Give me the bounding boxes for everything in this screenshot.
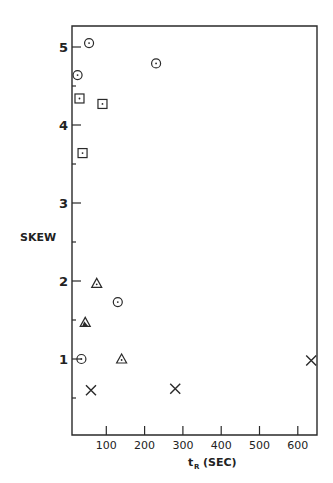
dot-marker-icon bbox=[121, 359, 123, 361]
y-tick-label: 3 bbox=[59, 196, 68, 211]
data-point-square-dot bbox=[75, 94, 84, 103]
dot-marker-icon bbox=[117, 301, 119, 303]
dot-marker-icon bbox=[102, 103, 104, 105]
x-tick-label: 300 bbox=[172, 439, 193, 452]
data-point-circle-dot bbox=[85, 39, 94, 48]
dot-marker-icon bbox=[82, 152, 84, 154]
x-marker-icon bbox=[86, 385, 96, 395]
x-tick-label: 500 bbox=[249, 439, 270, 452]
x-axis-label-subscript: R bbox=[194, 463, 200, 471]
x-tick-label: 600 bbox=[287, 439, 308, 452]
data-point-circle-dot bbox=[73, 71, 82, 80]
data-point-triangle-dot bbox=[117, 354, 127, 363]
data-point-circle-dot bbox=[152, 59, 161, 68]
x-tick-label: 200 bbox=[134, 439, 155, 452]
x-axis-label-unit: (SEC) bbox=[203, 456, 237, 469]
x-axis-label: t R (SEC) bbox=[188, 456, 237, 471]
data-point-x bbox=[86, 385, 96, 395]
triangle-marker-icon bbox=[117, 354, 127, 363]
dot-marker-icon bbox=[96, 283, 98, 285]
plot-border bbox=[72, 26, 317, 435]
data-point-triangle-dot bbox=[92, 278, 102, 287]
data-point-triangle-filled bbox=[80, 317, 90, 326]
y-axis-label: SKEW bbox=[20, 231, 56, 244]
data-points bbox=[73, 39, 316, 396]
plot-frame bbox=[72, 26, 317, 435]
x-marker-icon bbox=[170, 384, 180, 394]
dot-marker-icon bbox=[77, 74, 79, 76]
dot-marker-icon bbox=[81, 358, 83, 360]
data-point-circle-dot bbox=[113, 298, 122, 307]
dot-marker-icon bbox=[79, 98, 81, 100]
dot-marker-icon bbox=[88, 42, 90, 44]
x-axis-label-main: t bbox=[188, 456, 193, 469]
x-marker-icon bbox=[306, 356, 316, 366]
data-point-x bbox=[170, 384, 180, 394]
y-tick-label: 4 bbox=[59, 118, 68, 133]
data-point-square-dot bbox=[78, 149, 87, 158]
y-tick-label: 1 bbox=[59, 352, 68, 367]
y-tick-label: 2 bbox=[59, 274, 68, 289]
data-point-x bbox=[306, 356, 316, 366]
x-axis: 100200300400500600 bbox=[96, 426, 308, 452]
x-tick-label: 400 bbox=[211, 439, 232, 452]
scatter-chart: 12345 100200300400500600 SKEW t R (SEC) bbox=[0, 0, 333, 483]
x-tick-label: 100 bbox=[96, 439, 117, 452]
triangle-marker-icon bbox=[92, 278, 102, 287]
y-tick-label: 5 bbox=[59, 40, 68, 55]
dot-marker-icon bbox=[155, 62, 157, 64]
data-point-square-dot bbox=[98, 99, 107, 108]
